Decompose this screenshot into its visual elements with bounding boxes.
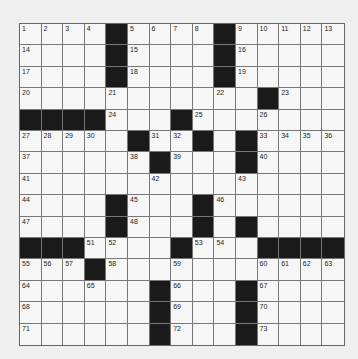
crossword-cell[interactable]: 7 (171, 24, 193, 45)
crossword-cell[interactable] (150, 259, 172, 280)
crossword-cell[interactable]: 18 (128, 67, 150, 88)
crossword-cell[interactable] (301, 281, 323, 302)
crossword-cell[interactable]: 12 (301, 24, 323, 45)
crossword-cell[interactable]: 44 (20, 195, 42, 216)
crossword-cell[interactable]: 2 (42, 24, 64, 45)
crossword-cell[interactable]: 23 (279, 88, 301, 109)
crossword-cell[interactable] (85, 174, 107, 195)
crossword-cell[interactable] (193, 302, 215, 323)
crossword-cell[interactable]: 54 (214, 238, 236, 259)
crossword-cell[interactable]: 70 (258, 302, 280, 323)
crossword-cell[interactable]: 32 (171, 131, 193, 152)
crossword-cell[interactable]: 17 (20, 67, 42, 88)
crossword-cell[interactable] (279, 45, 301, 66)
crossword-cell[interactable] (63, 324, 85, 345)
crossword-cell[interactable] (193, 67, 215, 88)
crossword-cell[interactable] (214, 217, 236, 238)
crossword-cell[interactable]: 40 (258, 152, 280, 173)
crossword-cell[interactable] (150, 110, 172, 131)
crossword-cell[interactable] (85, 88, 107, 109)
crossword-cell[interactable]: 57 (63, 259, 85, 280)
crossword-cell[interactable] (279, 174, 301, 195)
crossword-cell[interactable] (171, 45, 193, 66)
crossword-cell[interactable] (301, 45, 323, 66)
crossword-cell[interactable]: 27 (20, 131, 42, 152)
crossword-cell[interactable] (236, 88, 258, 109)
crossword-cell[interactable] (106, 324, 128, 345)
crossword-cell[interactable]: 5 (128, 24, 150, 45)
crossword-cell[interactable] (279, 217, 301, 238)
crossword-cell[interactable] (301, 88, 323, 109)
crossword-cell[interactable] (322, 302, 344, 323)
crossword-cell[interactable]: 58 (106, 259, 128, 280)
crossword-cell[interactable]: 41 (20, 174, 42, 195)
crossword-cell[interactable] (42, 45, 64, 66)
crossword-cell[interactable] (193, 259, 215, 280)
crossword-cell[interactable]: 56 (42, 259, 64, 280)
crossword-cell[interactable]: 30 (85, 131, 107, 152)
crossword-cell[interactable] (236, 195, 258, 216)
crossword-cell[interactable] (258, 67, 280, 88)
crossword-cell[interactable]: 60 (258, 259, 280, 280)
crossword-cell[interactable] (85, 152, 107, 173)
crossword-cell[interactable] (63, 302, 85, 323)
crossword-cell[interactable]: 68 (20, 302, 42, 323)
crossword-cell[interactable]: 8 (193, 24, 215, 45)
crossword-cell[interactable]: 63 (322, 259, 344, 280)
crossword-cell[interactable] (279, 281, 301, 302)
crossword-cell[interactable] (301, 302, 323, 323)
crossword-cell[interactable]: 9 (236, 24, 258, 45)
crossword-cell[interactable] (106, 302, 128, 323)
crossword-cell[interactable] (42, 88, 64, 109)
crossword-cell[interactable] (214, 324, 236, 345)
crossword-cell[interactable] (63, 195, 85, 216)
crossword-cell[interactable] (214, 152, 236, 173)
crossword-cell[interactable] (322, 45, 344, 66)
crossword-cell[interactable]: 6 (150, 24, 172, 45)
crossword-cell[interactable]: 20 (20, 88, 42, 109)
crossword-cell[interactable] (279, 302, 301, 323)
crossword-cell[interactable] (150, 88, 172, 109)
crossword-cell[interactable] (128, 281, 150, 302)
crossword-cell[interactable]: 39 (171, 152, 193, 173)
crossword-cell[interactable]: 53 (193, 238, 215, 259)
crossword-cell[interactable]: 48 (128, 217, 150, 238)
crossword-cell[interactable]: 72 (171, 324, 193, 345)
crossword-cell[interactable] (106, 281, 128, 302)
crossword-cell[interactable] (279, 110, 301, 131)
crossword-cell[interactable] (214, 131, 236, 152)
crossword-cell[interactable]: 65 (85, 281, 107, 302)
crossword-cell[interactable]: 15 (128, 45, 150, 66)
crossword-cell[interactable]: 64 (20, 281, 42, 302)
crossword-cell[interactable]: 73 (258, 324, 280, 345)
crossword-cell[interactable] (42, 281, 64, 302)
crossword-cell[interactable]: 38 (128, 152, 150, 173)
crossword-cell[interactable] (322, 67, 344, 88)
crossword-cell[interactable] (171, 174, 193, 195)
crossword-cell[interactable]: 47 (20, 217, 42, 238)
crossword-cell[interactable] (42, 217, 64, 238)
crossword-cell[interactable]: 66 (171, 281, 193, 302)
crossword-cell[interactable] (322, 110, 344, 131)
crossword-cell[interactable] (193, 174, 215, 195)
crossword-cell[interactable] (301, 152, 323, 173)
crossword-cell[interactable] (63, 45, 85, 66)
crossword-cell[interactable]: 24 (106, 110, 128, 131)
crossword-cell[interactable] (150, 67, 172, 88)
crossword-cell[interactable] (279, 67, 301, 88)
crossword-cell[interactable]: 14 (20, 45, 42, 66)
crossword-cell[interactable] (322, 324, 344, 345)
crossword-cell[interactable] (236, 238, 258, 259)
crossword-cell[interactable]: 29 (63, 131, 85, 152)
crossword-cell[interactable] (322, 281, 344, 302)
crossword-cell[interactable]: 11 (279, 24, 301, 45)
crossword-cell[interactable]: 16 (236, 45, 258, 66)
crossword-cell[interactable] (106, 131, 128, 152)
crossword-cell[interactable]: 35 (301, 131, 323, 152)
crossword-cell[interactable] (63, 281, 85, 302)
crossword-cell[interactable]: 33 (258, 131, 280, 152)
crossword-cell[interactable] (42, 302, 64, 323)
crossword-cell[interactable]: 43 (236, 174, 258, 195)
crossword-cell[interactable] (236, 259, 258, 280)
crossword-cell[interactable] (42, 152, 64, 173)
